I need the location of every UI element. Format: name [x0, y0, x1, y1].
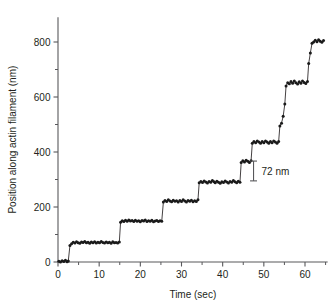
trace-data-point — [196, 198, 199, 201]
x-tick-label: 40 — [217, 269, 229, 280]
stepping-trace-chart: 0200400600800 0102030405060 72 nm Positi… — [0, 0, 335, 308]
trace-data-point — [306, 80, 309, 83]
y-tick-label: 400 — [34, 147, 51, 158]
y-tick-label: 200 — [34, 202, 51, 213]
x-tick-label: 50 — [258, 269, 270, 280]
y-tick-label: 600 — [34, 92, 51, 103]
trace-step-line — [59, 40, 324, 262]
trace-data-point — [283, 102, 286, 105]
trace-data-point — [277, 140, 280, 143]
trace-data-point — [278, 124, 281, 127]
x-tick-label: 20 — [135, 269, 147, 280]
y-axis-tick-labels: 0200400600800 — [34, 37, 51, 268]
x-tick-label: 60 — [299, 269, 311, 280]
trace-data-point — [238, 181, 241, 184]
trace-data-point — [322, 39, 325, 42]
trace-data-point — [307, 62, 310, 65]
x-tick-label: 30 — [176, 269, 188, 280]
trace-data-point — [160, 220, 163, 223]
trace-data-point — [309, 52, 312, 55]
trace-data-point — [282, 115, 285, 118]
y-tick-label: 800 — [34, 37, 51, 48]
trace-data-point — [280, 122, 283, 125]
scale-bar-label: 72 nm — [262, 166, 290, 177]
trace-data-point — [118, 240, 121, 243]
trace-data-point — [67, 259, 70, 262]
scale-bar: 72 nm — [250, 161, 289, 181]
x-axis-ticks — [58, 262, 326, 267]
data-trace — [57, 38, 325, 263]
x-tick-label: 0 — [55, 269, 61, 280]
figure-panel: 0200400600800 0102030405060 72 nm Positi… — [0, 0, 335, 308]
axes — [58, 17, 328, 262]
y-axis-ticks — [54, 42, 59, 262]
trace-data-point — [285, 85, 288, 88]
x-axis-label: Time (sec) — [169, 289, 216, 300]
trace-data-points — [57, 38, 325, 263]
y-tick-label: 0 — [45, 257, 51, 268]
y-axis-label: Position along actin filament (nm) — [7, 66, 18, 214]
x-axis-tick-labels: 0102030405060 — [55, 269, 311, 280]
x-tick-label: 10 — [94, 269, 106, 280]
